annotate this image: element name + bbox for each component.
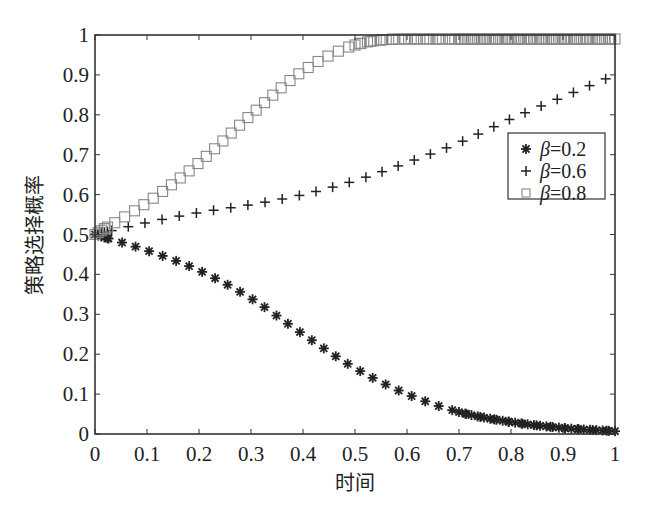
- y-tick-label: 0: [79, 422, 90, 446]
- asterisk-marker: [368, 373, 378, 383]
- square-marker: [130, 206, 140, 216]
- plus-marker: [393, 161, 403, 171]
- x-tick-label: 0.3: [238, 442, 264, 466]
- asterisk-marker: [197, 267, 207, 277]
- axis-ticks: [95, 35, 615, 434]
- plus-marker: [311, 186, 321, 196]
- asterisk-marker: [283, 319, 293, 329]
- plus-marker: [568, 87, 578, 97]
- x-tick-label: 0.9: [550, 442, 576, 466]
- plus-marker: [328, 182, 338, 192]
- x-tick-label: 0.7: [446, 442, 472, 466]
- square-marker: [333, 46, 343, 56]
- x-tick-label: 0.2: [186, 442, 212, 466]
- plus-marker: [243, 200, 253, 210]
- legend-label: β=0.2: [539, 138, 586, 161]
- y-tick-label: 0.3: [63, 302, 89, 326]
- x-tick-label: 0.6: [394, 442, 420, 466]
- plus-marker: [520, 108, 530, 118]
- asterisk-marker: [381, 379, 391, 389]
- asterisk-marker: [184, 261, 194, 271]
- asterisk-marker: [235, 287, 245, 297]
- asterisk-marker: [521, 144, 531, 154]
- asterisk-marker: [343, 359, 353, 369]
- legend-label: β=0.8: [539, 182, 586, 205]
- square-marker: [139, 200, 149, 210]
- plus-marker: [361, 172, 371, 182]
- y-tick-label: 0.1: [63, 382, 89, 406]
- y-tick-label: 0.7: [63, 143, 89, 167]
- plus-marker: [277, 194, 287, 204]
- asterisk-marker: [420, 396, 430, 406]
- x-tick-label: 0.1: [134, 442, 160, 466]
- plus-marker: [458, 136, 468, 146]
- asterisk-marker: [407, 391, 417, 401]
- series-β=0.2: [90, 230, 620, 437]
- plus-marker: [123, 222, 133, 232]
- legend: β=0.2β=0.6β=0.8: [508, 133, 605, 205]
- asterisk-marker: [447, 405, 457, 415]
- y-tick-label: 0.2: [63, 342, 89, 366]
- y-tick-label: 0.6: [63, 183, 89, 207]
- square-marker: [366, 36, 376, 46]
- asterisk-marker: [117, 238, 127, 248]
- y-tick-label: 0.8: [63, 103, 89, 127]
- square-marker: [313, 56, 323, 66]
- asterisk-marker: [260, 302, 270, 312]
- x-tick-label: 0.4: [290, 442, 317, 466]
- plus-marker: [504, 114, 514, 124]
- plus-marker: [209, 205, 219, 215]
- plus-marker: [140, 218, 150, 228]
- plus-marker: [344, 177, 354, 187]
- axes-frame: [95, 35, 615, 434]
- x-tick-label: 1: [610, 442, 621, 466]
- y-tick-labels: 00.10.20.30.40.50.60.70.80.91: [63, 23, 90, 446]
- x-tick-label: 0: [90, 442, 101, 466]
- asterisk-marker: [295, 327, 305, 337]
- asterisk-marker: [144, 246, 154, 256]
- y-tick-label: 1: [79, 23, 90, 47]
- plus-marker: [409, 155, 419, 165]
- plus-marker: [601, 74, 611, 84]
- plus-marker: [473, 129, 483, 139]
- plus-marker: [425, 149, 435, 159]
- asterisk-marker: [171, 256, 181, 266]
- plot-area: [90, 34, 620, 436]
- y-tick-label: 0.5: [63, 223, 89, 247]
- chart: 00.10.20.30.40.50.60.70.80.91 00.10.20.3…: [0, 0, 648, 517]
- asterisk-marker: [331, 351, 341, 361]
- plus-marker: [294, 190, 304, 200]
- plus-marker: [536, 101, 546, 111]
- square-marker: [120, 212, 130, 222]
- asterisk-marker: [434, 401, 444, 411]
- square-marker: [148, 193, 158, 203]
- plus-marker: [442, 143, 452, 153]
- x-tick-label: 0.8: [498, 442, 524, 466]
- asterisk-marker: [158, 251, 168, 261]
- asterisk-marker: [131, 242, 141, 252]
- plus-marker: [174, 211, 184, 221]
- square-marker: [344, 42, 354, 52]
- x-tick-label: 0.5: [342, 442, 368, 466]
- plus-marker: [226, 203, 236, 213]
- asterisk-marker: [210, 273, 220, 283]
- legend-label: β=0.6: [539, 160, 586, 183]
- asterisk-marker: [355, 366, 365, 376]
- plus-marker: [191, 208, 201, 218]
- asterisk-marker: [271, 311, 281, 321]
- square-marker: [323, 51, 333, 61]
- plus-marker: [377, 167, 387, 177]
- plus-marker: [260, 197, 270, 207]
- asterisk-marker: [248, 294, 258, 304]
- asterisk-marker: [319, 343, 329, 353]
- asterisk-marker: [223, 280, 233, 290]
- plus-marker: [552, 94, 562, 104]
- y-tick-label: 0.4: [63, 262, 90, 286]
- y-tick-label: 0.9: [63, 63, 89, 87]
- plus-marker: [157, 214, 167, 224]
- square-marker: [303, 62, 313, 72]
- x-tick-labels: 00.10.20.30.40.50.60.70.80.91: [90, 442, 621, 466]
- asterisk-marker: [307, 335, 317, 345]
- y-axis-title: 策略选择概率: [23, 175, 47, 295]
- plus-marker: [585, 81, 595, 91]
